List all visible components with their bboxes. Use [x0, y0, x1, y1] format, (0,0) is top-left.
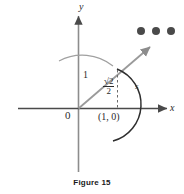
fraction-denominator: 2 [103, 87, 114, 96]
ellipsis-dot-2 [152, 27, 160, 35]
arc-length-label: s [135, 82, 139, 91]
figure-caption: Figure 15 [0, 178, 184, 187]
origin-label: 0 [65, 110, 71, 121]
ellipsis-dots-group [136, 26, 180, 38]
radicand: 2 [109, 76, 114, 86]
point-coordinate-label: (1, 0) [98, 112, 120, 122]
ellipsis-dot-1 [137, 27, 145, 35]
figure-15-container: y x 0 1 s (1, 0) √2 2 Figure 15 [0, 0, 184, 194]
x-axis-label: x [170, 103, 174, 113]
x-coordinate-fraction-label: √2 2 [103, 77, 114, 97]
ellipsis-dot-3 [167, 27, 175, 35]
radius-label: 1 [83, 70, 88, 80]
sweep-arc [59, 55, 113, 66]
y-axis-label: y [79, 2, 83, 12]
